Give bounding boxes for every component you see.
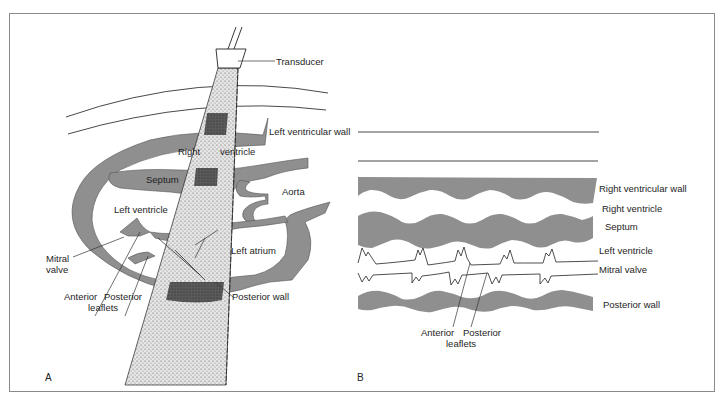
label-right-ventricle: Right ventricle bbox=[602, 203, 662, 214]
label-leaflets-a: leaflets bbox=[88, 302, 118, 313]
label-posterior-wall-b: Posterior wall bbox=[603, 299, 660, 310]
label-ventricle: ventricle bbox=[220, 146, 255, 157]
label-anterior-a: Anterior bbox=[64, 291, 97, 302]
beam-overlap-lv-wall bbox=[204, 113, 228, 135]
chest-wall-line-outer bbox=[66, 85, 328, 117]
echocardiogram-figure bbox=[0, 0, 724, 397]
panel-a-heart-diagram bbox=[66, 27, 330, 385]
posterior-wall-trace bbox=[358, 290, 593, 312]
beam-overlap-posterior-wall bbox=[166, 282, 224, 303]
label-anterior-b: Anterior bbox=[421, 327, 454, 338]
anterior-leaflet-trace bbox=[358, 247, 598, 265]
label-left-ventricular-wall: Left ventricular wall bbox=[269, 126, 350, 137]
label-left-atrium: Left atrium bbox=[231, 245, 276, 256]
leader-posterior bbox=[125, 256, 148, 316]
right-ventricular-wall-trace bbox=[358, 177, 597, 204]
posterior-mitral-leaflet bbox=[128, 252, 155, 264]
label-right-ventricular-wall: Right ventricular wall bbox=[599, 183, 687, 194]
beam-overlap-septum bbox=[194, 168, 218, 186]
label-left-ventricle: Left ventricle bbox=[114, 204, 168, 215]
septum-trace bbox=[358, 212, 593, 249]
label-posterior-wall-a: Posterior wall bbox=[232, 291, 289, 302]
label-mitral-valve-b: Mitral valve bbox=[599, 264, 647, 275]
label-right: Right bbox=[178, 146, 200, 157]
label-septum-b: Septum bbox=[605, 221, 638, 232]
label-transducer: Transducer bbox=[276, 56, 324, 67]
label-septum: Septum bbox=[146, 174, 179, 185]
panel-letter-a: A bbox=[45, 372, 52, 383]
label-mitral-valve-line1: Mitral bbox=[46, 253, 69, 264]
panel-letter-b: B bbox=[357, 372, 364, 383]
label-left-ventricle-b: Left ventricle bbox=[599, 245, 653, 256]
transducer-icon bbox=[216, 49, 246, 68]
label-posterior-b: Posterior bbox=[463, 327, 501, 338]
label-mitral-valve-line2: valve bbox=[46, 264, 68, 275]
label-aorta: Aorta bbox=[282, 186, 305, 197]
label-posterior-a: Posterior bbox=[104, 291, 142, 302]
anterior-mitral-leaflet bbox=[120, 218, 150, 236]
posterior-leaflet-trace bbox=[358, 272, 598, 285]
label-leaflets-b: leaflets bbox=[446, 338, 476, 349]
aortic-root bbox=[236, 180, 268, 222]
panel-b-m-mode-tracing bbox=[358, 132, 599, 327]
